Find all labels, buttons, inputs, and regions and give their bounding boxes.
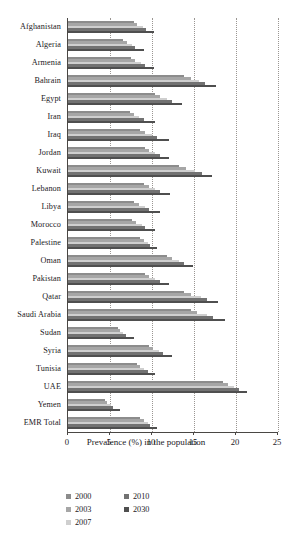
bar-group bbox=[68, 327, 278, 340]
legend-swatch-icon bbox=[66, 520, 71, 525]
category-label: Lebanon bbox=[32, 185, 61, 193]
bar bbox=[68, 139, 169, 142]
legend-item-2007[interactable]: 2007 bbox=[66, 518, 91, 527]
bar-group bbox=[68, 363, 278, 376]
bar-group bbox=[68, 147, 278, 160]
category-label: Iraq bbox=[47, 131, 61, 139]
bar-group bbox=[68, 381, 278, 394]
category-label: Armenia bbox=[32, 59, 61, 67]
bar bbox=[68, 247, 157, 250]
bar bbox=[68, 49, 144, 52]
bar-group bbox=[68, 183, 278, 196]
bar bbox=[68, 175, 212, 178]
bar bbox=[68, 85, 216, 88]
category-label: Jordan bbox=[39, 149, 61, 157]
legend-item-2003[interactable]: 2003 bbox=[66, 505, 91, 514]
x-tick bbox=[193, 432, 194, 435]
category-label: Saudi Arabia bbox=[17, 311, 61, 319]
x-tick bbox=[67, 432, 68, 435]
category-label: Libya bbox=[41, 203, 61, 211]
bar-group bbox=[68, 417, 278, 430]
bar-group bbox=[68, 219, 278, 232]
bar bbox=[68, 373, 155, 376]
bar-group bbox=[68, 255, 278, 268]
bar-group bbox=[68, 399, 278, 412]
legend-label: 2003 bbox=[75, 505, 91, 514]
legend-swatch-icon bbox=[124, 494, 129, 499]
plot-area bbox=[67, 18, 278, 432]
bar bbox=[68, 103, 182, 106]
bar bbox=[68, 193, 170, 196]
category-label: Algeria bbox=[36, 41, 61, 49]
gridline-25 bbox=[278, 18, 280, 432]
bar-group bbox=[68, 93, 278, 106]
bar-group bbox=[68, 75, 278, 88]
category-axis-labels: AfghanistanAlgeriaArmeniaBahrainEgyptIra… bbox=[0, 18, 64, 432]
x-axis: 0510152025 bbox=[67, 432, 277, 433]
bar-group bbox=[68, 165, 278, 178]
bar-group bbox=[68, 345, 278, 358]
category-label: Sudan bbox=[40, 329, 61, 337]
bar-group bbox=[68, 309, 278, 322]
legend-label: 2007 bbox=[75, 518, 91, 527]
legend-swatch-icon bbox=[66, 507, 71, 512]
bar bbox=[68, 301, 218, 304]
category-label: Kuwait bbox=[36, 167, 61, 175]
category-label: Egypt bbox=[41, 95, 61, 103]
category-label: EMR Total bbox=[24, 419, 61, 427]
legend-label: 2030 bbox=[133, 505, 149, 514]
bar bbox=[68, 391, 247, 394]
legend-item-2030[interactable]: 2030 bbox=[124, 505, 149, 514]
x-tick bbox=[277, 432, 278, 435]
bar bbox=[68, 283, 169, 286]
category-label: Bahrain bbox=[34, 77, 61, 85]
bar bbox=[68, 337, 134, 340]
x-axis-title: Prevalence (%) in the population bbox=[0, 437, 292, 447]
category-label: Oman bbox=[41, 257, 61, 265]
bar bbox=[68, 229, 155, 232]
bar bbox=[68, 319, 225, 322]
category-label: Qatar bbox=[42, 293, 61, 301]
bar-group bbox=[68, 21, 278, 34]
category-label: Syria bbox=[43, 347, 61, 355]
bar bbox=[68, 67, 154, 70]
category-label: Yemen bbox=[38, 401, 61, 409]
category-label: Afghanistan bbox=[20, 23, 61, 31]
legend-label: 2010 bbox=[133, 492, 149, 501]
prevalence-bar-chart: AfghanistanAlgeriaArmeniaBahrainEgyptIra… bbox=[0, 0, 292, 556]
bar bbox=[68, 265, 193, 268]
legend-item-2000[interactable]: 2000 bbox=[66, 492, 91, 501]
legend-swatch-icon bbox=[66, 494, 71, 499]
category-label: Palestine bbox=[31, 239, 61, 247]
bar-group bbox=[68, 111, 278, 124]
category-label: Pakistan bbox=[32, 275, 61, 283]
bar-group bbox=[68, 237, 278, 250]
category-label: Tunisia bbox=[36, 365, 61, 373]
bar bbox=[68, 157, 169, 160]
bar-group bbox=[68, 129, 278, 142]
bar-group bbox=[68, 291, 278, 304]
bar-group bbox=[68, 201, 278, 214]
bar-group bbox=[68, 273, 278, 286]
bar-group bbox=[68, 39, 278, 52]
bar bbox=[68, 211, 160, 214]
bar-group bbox=[68, 57, 278, 70]
bar bbox=[68, 409, 120, 412]
category-label: Iran bbox=[47, 113, 61, 121]
plot-wrapper: AfghanistanAlgeriaArmeniaBahrainEgyptIra… bbox=[0, 18, 292, 438]
x-tick bbox=[235, 432, 236, 435]
bar bbox=[68, 121, 155, 124]
legend-label: 2000 bbox=[75, 492, 91, 501]
category-label: UAE bbox=[44, 383, 61, 391]
x-tick bbox=[109, 432, 110, 435]
bar bbox=[68, 355, 172, 358]
x-tick bbox=[151, 432, 152, 435]
category-label: Morocco bbox=[31, 221, 61, 229]
legend-swatch-icon bbox=[124, 507, 129, 512]
legend-item-2010[interactable]: 2010 bbox=[124, 492, 149, 501]
bar bbox=[68, 31, 154, 34]
chart-legend: 20002003200720102030 bbox=[66, 492, 246, 542]
bar bbox=[68, 427, 157, 430]
